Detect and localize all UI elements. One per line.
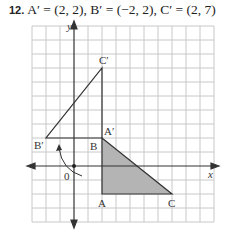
y-axis-down-arrow-icon	[71, 220, 77, 228]
origin-point	[72, 164, 76, 168]
coordinate-graph: y x 0 C′ A′ B′ B A C	[0, 0, 230, 233]
point-a-label: A	[98, 197, 106, 209]
point-b-prime-label: B′	[34, 139, 44, 151]
x-axis-left-arrow-icon	[27, 163, 35, 169]
y-axis-up-arrow-icon	[71, 21, 77, 29]
y-axis-label: y	[66, 20, 72, 32]
x-axis-label: x	[207, 168, 213, 180]
point-c-label: C	[168, 197, 175, 209]
origin-label: 0	[64, 170, 70, 182]
point-a-prime-label: A′	[104, 125, 114, 137]
point-b-label: B	[90, 140, 97, 152]
point-c-prime-label: C′	[99, 54, 109, 66]
